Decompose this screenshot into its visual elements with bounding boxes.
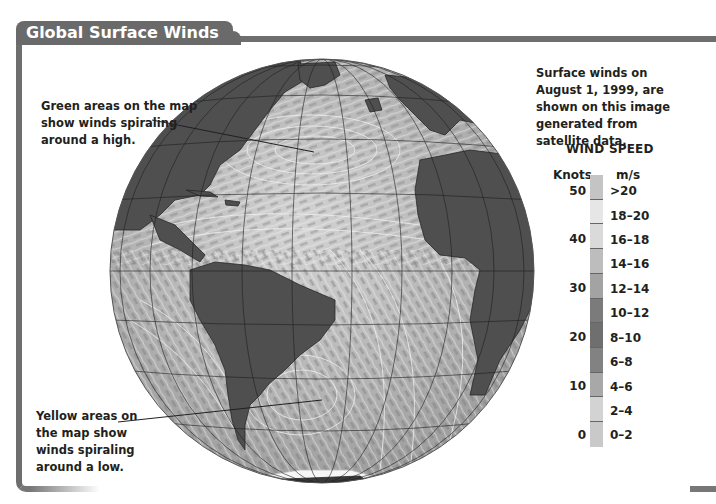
ms-bin-label: 16–18 [610, 233, 649, 247]
description-line: shown on this image generated from [536, 99, 673, 133]
callout-low-line: winds spiraling [36, 442, 137, 459]
knots-tick: 20 [556, 330, 586, 344]
legend-swatch [590, 373, 603, 398]
legend-swatch [590, 175, 603, 200]
legend-title: WIND SPEED [566, 142, 654, 156]
description-line: Surface winds on August 1, 1999, are [536, 65, 673, 99]
legend-swatch [590, 249, 603, 274]
legend-swatch [590, 274, 603, 299]
callout-low-line: around a low. [36, 459, 137, 476]
ms-bin-label: 10–12 [610, 306, 649, 320]
ms-bin-label: 12–14 [610, 282, 649, 296]
ms-bin-label: 18–20 [610, 209, 649, 223]
knots-tick: 0 [556, 428, 586, 442]
ms-bin-label: 14–16 [610, 257, 649, 271]
legend-swatch [590, 422, 603, 447]
map-description: Surface winds on August 1, 1999, are sho… [536, 65, 673, 150]
callout-high-line: Green areas on the map [41, 98, 197, 115]
callout-high: Green areas on the map show winds spiral… [41, 98, 197, 149]
knots-tick: 10 [556, 379, 586, 393]
legend-swatch [590, 397, 603, 422]
legend-swatch [590, 348, 603, 373]
callout-high-line: show winds spiraling [41, 115, 197, 132]
knots-tick: 50 [556, 184, 586, 198]
ms-bin-label: 2–4 [610, 404, 633, 418]
ms-bin-label: 6–8 [610, 355, 633, 369]
legend-ms-header: m/s [616, 168, 640, 182]
knots-tick: 30 [556, 281, 586, 295]
ms-bin-label: 4–6 [610, 380, 633, 394]
ms-bin-label: 0–2 [610, 428, 633, 442]
legend-knots-header: Knots [553, 168, 592, 182]
wind-speed-color-bar [590, 175, 603, 447]
legend-swatch [590, 299, 603, 324]
legend-swatch [590, 224, 603, 249]
knots-tick: 40 [556, 232, 586, 246]
legend-swatch [590, 200, 603, 225]
callout-low-line: Yellow areas on [36, 408, 137, 425]
ms-bin-label: >20 [610, 184, 637, 198]
callout-high-line: around a high. [41, 132, 197, 149]
ms-bin-label: 8–10 [610, 331, 641, 345]
callout-low-line: the map show [36, 425, 137, 442]
legend-swatch [590, 323, 603, 348]
callout-low: Yellow areas on the map show winds spira… [36, 408, 137, 476]
